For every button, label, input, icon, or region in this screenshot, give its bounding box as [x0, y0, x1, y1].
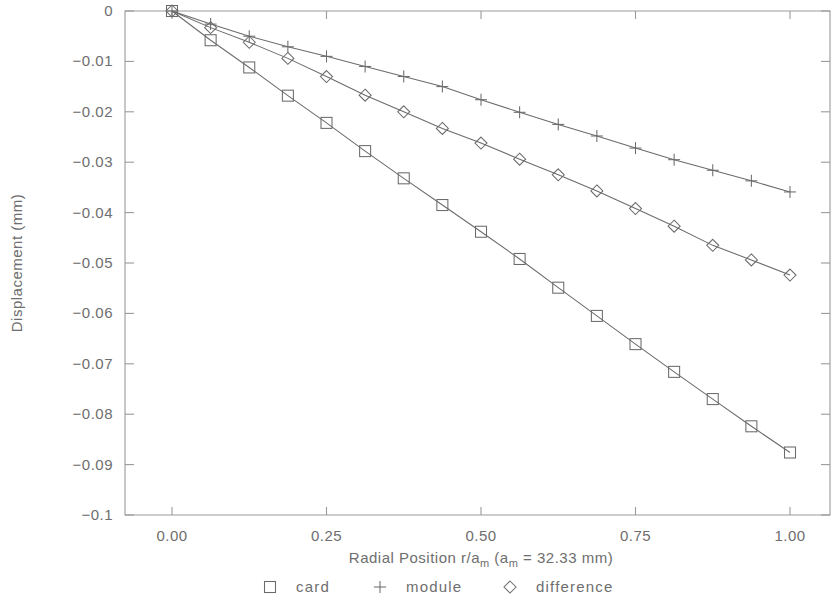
displacement-line-chart: 0.000.250.500.751.00 0−0.01−0.02−0.03−0.… [0, 0, 838, 605]
y-tick-label: −0.09 [73, 456, 113, 473]
series-line [172, 11, 790, 453]
series-card [167, 6, 796, 459]
data-point-plus-icon [630, 142, 642, 154]
y-tick-label: −0.06 [73, 304, 113, 321]
series-line [172, 11, 790, 275]
legend-label-difference: difference [536, 578, 614, 595]
data-point-plus-icon [707, 164, 719, 176]
data-point-plus-icon [475, 94, 487, 106]
data-point-plus-icon [321, 50, 333, 62]
data-point-plus-icon [282, 41, 294, 53]
data-point-plus-icon [436, 81, 448, 93]
y-axis-tick-labels: 0−0.01−0.02−0.03−0.04−0.05−0.06−0.07−0.0… [73, 2, 113, 523]
data-point-plus-icon [514, 106, 526, 118]
data-series-group [166, 5, 796, 458]
series-difference [166, 5, 796, 281]
legend-label-card: card [296, 578, 330, 595]
plot-border [125, 11, 830, 515]
legend-marker-plus-icon [374, 581, 386, 593]
y-tick-label: −0.1 [81, 506, 113, 523]
legend-marker-diamond-icon [504, 581, 516, 593]
plot-frame [125, 11, 830, 515]
legend-label-module: module [406, 578, 462, 595]
data-point-plus-icon [668, 154, 680, 166]
y-tick-label: −0.04 [73, 204, 113, 221]
x-axis-label: Radial Position r/am (am = 32.33 mm) [349, 549, 613, 569]
y-tick-label: −0.05 [73, 254, 113, 271]
y-tick-label: −0.08 [73, 405, 113, 422]
data-point-plus-icon [745, 175, 757, 187]
data-point-plus-icon [591, 130, 603, 142]
x-tick-label: 1.00 [774, 527, 805, 544]
x-tick-label: 0.50 [465, 527, 496, 544]
chart-container: 0.000.250.500.751.00 0−0.01−0.02−0.03−0.… [0, 0, 838, 605]
legend-marker-square-icon [265, 582, 276, 593]
y-tick-label: −0.01 [73, 52, 113, 69]
x-tick-label: 0.75 [620, 527, 651, 544]
y-tick-label: −0.03 [73, 153, 113, 170]
y-axis-ticks [125, 11, 830, 515]
data-point-plus-icon [552, 118, 564, 130]
data-point-plus-icon [398, 71, 410, 83]
y-tick-label: −0.02 [73, 103, 113, 120]
x-tick-label: 0.25 [311, 527, 342, 544]
y-axis-label-text: Displacement (mm) [8, 194, 25, 333]
y-tick-label: −0.07 [73, 355, 113, 372]
data-point-plus-icon [359, 60, 371, 72]
x-axis-label-text: Radial Position r/am (am = 32.33 mm) [349, 549, 613, 569]
y-tick-label: 0 [104, 2, 113, 19]
data-point-square-icon [785, 447, 796, 458]
x-axis-ticks [172, 11, 790, 515]
series-module [166, 5, 796, 198]
y-axis-label: Displacement (mm) [8, 194, 25, 333]
x-tick-label: 0.00 [156, 527, 187, 544]
x-axis-tick-labels: 0.000.250.500.751.00 [156, 527, 805, 544]
data-point-plus-icon [784, 186, 796, 198]
data-point-plus-icon [205, 18, 217, 30]
chart-legend: cardmoduledifference [265, 578, 614, 595]
